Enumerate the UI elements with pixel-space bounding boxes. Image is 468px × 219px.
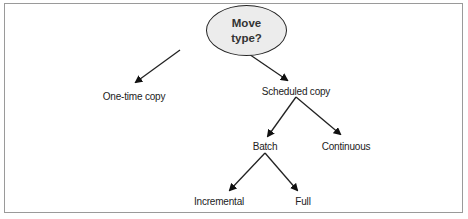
node-full: Full — [295, 196, 310, 207]
root-decision-node: Move type? — [206, 5, 287, 56]
node-one-time-copy: One-time copy — [103, 91, 165, 102]
node-scheduled-copy: Scheduled copy — [262, 86, 330, 97]
edge-batch-full — [265, 153, 297, 190]
node-continuous: Continuous — [322, 141, 371, 152]
edge-root-one-time — [136, 50, 180, 82]
node-incremental: Incremental — [194, 196, 244, 207]
edge-scheduled-batch — [268, 97, 296, 136]
edge-scheduled-continuous — [296, 97, 340, 134]
edge-batch-incremental — [230, 153, 265, 190]
node-batch: Batch — [253, 141, 278, 152]
root-label: Move type? — [231, 16, 262, 46]
